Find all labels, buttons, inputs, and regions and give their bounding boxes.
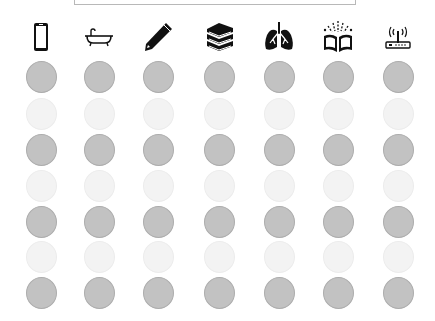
circle-r3-c2[interactable]	[84, 134, 115, 166]
circle-r6-c4[interactable]	[204, 241, 235, 273]
circle-r5-c3[interactable]	[143, 206, 174, 238]
circle-r7-c2[interactable]	[84, 277, 115, 309]
circle-r4-c7[interactable]	[383, 170, 414, 202]
circle-r5-c4[interactable]	[204, 206, 235, 238]
circle-r6-c1[interactable]	[26, 241, 57, 273]
bathtub-icon	[82, 20, 116, 54]
circle-r7-c3[interactable]	[143, 277, 174, 309]
pencil-icon	[141, 20, 175, 54]
circle-r4-c1[interactable]	[26, 170, 57, 202]
circle-r5-c1[interactable]	[26, 206, 57, 238]
circle-r5-c5[interactable]	[264, 206, 295, 238]
circle-r1-c2[interactable]	[84, 61, 115, 93]
lungs-icon	[262, 20, 296, 54]
circle-r2-c4[interactable]	[204, 98, 235, 130]
circle-r3-c5[interactable]	[264, 134, 295, 166]
circle-r2-c7[interactable]	[383, 98, 414, 130]
circle-r3-c4[interactable]	[204, 134, 235, 166]
circle-r6-c6[interactable]	[323, 241, 354, 273]
circle-r2-c1[interactable]	[26, 98, 57, 130]
wifi-router-icon	[381, 20, 415, 54]
circle-r3-c7[interactable]	[383, 134, 414, 166]
circle-r4-c2[interactable]	[84, 170, 115, 202]
circle-r6-c5[interactable]	[264, 241, 295, 273]
circle-r2-c3[interactable]	[143, 98, 174, 130]
circle-r4-c4[interactable]	[204, 170, 235, 202]
circle-r7-c7[interactable]	[383, 277, 414, 309]
circle-r5-c2[interactable]	[84, 206, 115, 238]
circle-r2-c5[interactable]	[264, 98, 295, 130]
circle-r7-c6[interactable]	[323, 277, 354, 309]
circle-r1-c3[interactable]	[143, 61, 174, 93]
circle-r4-c6[interactable]	[323, 170, 354, 202]
circle-r7-c5[interactable]	[264, 277, 295, 309]
circle-r5-c7[interactable]	[383, 206, 414, 238]
circle-r1-c7[interactable]	[383, 61, 414, 93]
circle-r6-c7[interactable]	[383, 241, 414, 273]
circle-r1-c1[interactable]	[26, 61, 57, 93]
circle-r1-c5[interactable]	[264, 61, 295, 93]
circle-r6-c2[interactable]	[84, 241, 115, 273]
top-text-box[interactable]	[74, 0, 356, 5]
circle-r7-c4[interactable]	[204, 277, 235, 309]
smartphone-icon	[24, 20, 58, 54]
circle-r3-c6[interactable]	[323, 134, 354, 166]
books-stack-icon	[202, 20, 236, 54]
circle-r2-c6[interactable]	[323, 98, 354, 130]
open-book-magic-icon	[321, 20, 355, 54]
circle-r1-c6[interactable]	[323, 61, 354, 93]
circle-r4-c3[interactable]	[143, 170, 174, 202]
circle-r6-c3[interactable]	[143, 241, 174, 273]
circle-r7-c1[interactable]	[26, 277, 57, 309]
circle-r4-c5[interactable]	[264, 170, 295, 202]
circle-r5-c6[interactable]	[323, 206, 354, 238]
circle-r2-c2[interactable]	[84, 98, 115, 130]
circle-r3-c1[interactable]	[26, 134, 57, 166]
circle-r1-c4[interactable]	[204, 61, 235, 93]
circle-r3-c3[interactable]	[143, 134, 174, 166]
